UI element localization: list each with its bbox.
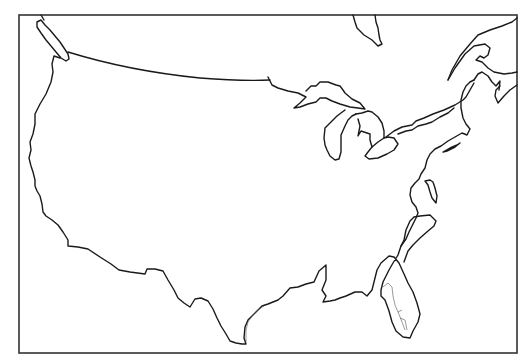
nova-scotia bbox=[495, 85, 517, 103]
lake-huron bbox=[356, 111, 384, 147]
us-mainland-outline bbox=[29, 56, 474, 344]
canada-border bbox=[41, 15, 270, 80]
vancouver-island bbox=[37, 20, 69, 61]
st-lawrence-north-shore bbox=[398, 108, 454, 134]
texas-barrier-islands bbox=[246, 306, 264, 342]
lake-superior bbox=[268, 77, 365, 109]
chesapeake-bay bbox=[425, 180, 437, 203]
gaspe-peninsula bbox=[448, 44, 517, 80]
map-frame bbox=[19, 15, 517, 353]
new-brunswick bbox=[474, 72, 500, 90]
gulf-st-lawrence bbox=[448, 18, 517, 80]
long-island bbox=[443, 143, 460, 152]
florida-waterways bbox=[383, 283, 407, 330]
lake-michigan bbox=[324, 110, 356, 160]
james-bay bbox=[353, 15, 382, 46]
us-outline-map bbox=[0, 0, 532, 362]
